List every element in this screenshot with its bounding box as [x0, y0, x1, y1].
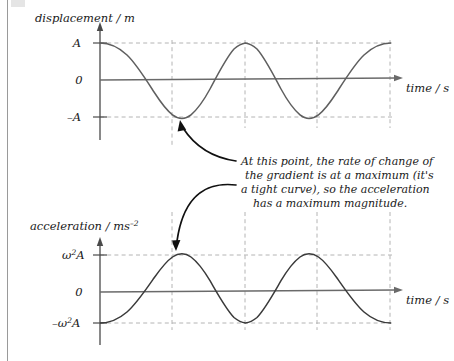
- annotation-line-1: At this point, the rate of change of: [240, 155, 435, 168]
- acceleration-y-axis-arrowhead: [97, 237, 103, 246]
- displacement-y-axis-label: displacement / m: [35, 11, 135, 25]
- displacement-chart: displacement / m time / s A 0 –A: [35, 11, 449, 145]
- figure-page: displacement / m time / s A 0 –A At this…: [0, 0, 454, 361]
- acceleration-tick-label-zero: 0: [75, 285, 82, 299]
- acceleration-y-axis-label-exponent: –2: [130, 219, 139, 228]
- pointer-to-displacement-trough-arrowhead: [178, 120, 187, 132]
- pointer-to-acceleration-peak-arrowhead: [171, 240, 180, 251]
- acceleration-tick-negative-omega: –ω: [52, 316, 68, 330]
- pointer-to-displacement-trough: [183, 128, 236, 161]
- acceleration-y-axis-label-main: acceleration / ms: [30, 219, 130, 233]
- annotation-text-block: At this point, the rate of change of the…: [240, 155, 435, 210]
- annotation-pointers: [171, 120, 236, 251]
- acceleration-x-axis-label: time / s: [406, 293, 449, 307]
- displacement-tick-label-negative: –A: [67, 110, 81, 124]
- pointer-to-acceleration-peak: [177, 185, 236, 241]
- acceleration-tick-positive-amplitude: A: [75, 248, 84, 262]
- annotation-line-2: the gradient is at a maximum (it's: [245, 169, 434, 182]
- shm-graphs-figure: displacement / m time / s A 0 –A At this…: [0, 0, 454, 361]
- displacement-x-axis-arrowhead: [394, 75, 403, 81]
- displacement-tick-label-zero: 0: [75, 73, 82, 87]
- acceleration-tick-label-negative: –ω2A: [52, 316, 80, 330]
- displacement-x-axis-label: time / s: [406, 81, 449, 95]
- annotation-line-3: a tight curve), so the acceleration: [241, 183, 430, 196]
- acceleration-tick-negative-amplitude: A: [71, 316, 80, 330]
- displacement-tick-label-positive: A: [72, 36, 81, 50]
- acceleration-x-axis-arrowhead: [394, 287, 403, 293]
- acceleration-y-axis-label: acceleration / ms–2: [30, 219, 139, 233]
- annotation-line-4: has a maximum magnitude.: [253, 197, 407, 210]
- acceleration-tick-label-positive: ω2A: [62, 248, 84, 262]
- acceleration-chart: acceleration / ms–2 time / s ω2A 0 –ω2A: [30, 212, 449, 345]
